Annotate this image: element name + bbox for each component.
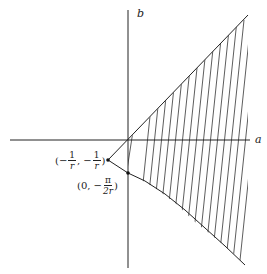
paren: ) <box>102 155 106 166</box>
a-axis-label: a <box>255 134 262 145</box>
paren: (0, − <box>77 180 102 191</box>
upper-boundary <box>108 15 248 160</box>
vertex-point <box>106 158 110 162</box>
denominator: r <box>94 161 98 171</box>
hatching <box>120 20 265 270</box>
numerator: 1 <box>93 150 101 161</box>
separator: , − <box>77 155 92 166</box>
denominator: 2r <box>103 186 113 196</box>
diagram: b a (− 1r , − 1r ) (0, − π2r ) <box>0 0 267 274</box>
diagram-canvas <box>0 0 267 274</box>
fraction: 1r <box>68 150 76 171</box>
paren: (− <box>55 155 67 166</box>
intercept-point <box>126 171 130 175</box>
vertex-label: (− 1r , − 1r ) <box>55 150 105 171</box>
numerator: 1 <box>68 150 76 161</box>
intercept-label: (0, − π2r ) <box>77 175 118 196</box>
denominator: r <box>70 161 74 171</box>
b-axis-label: b <box>137 8 144 19</box>
fraction: π2r <box>103 175 113 196</box>
fraction: 1r <box>93 150 101 171</box>
lower-boundary <box>108 160 245 265</box>
numerator: π <box>104 175 112 186</box>
paren: ) <box>114 180 118 191</box>
